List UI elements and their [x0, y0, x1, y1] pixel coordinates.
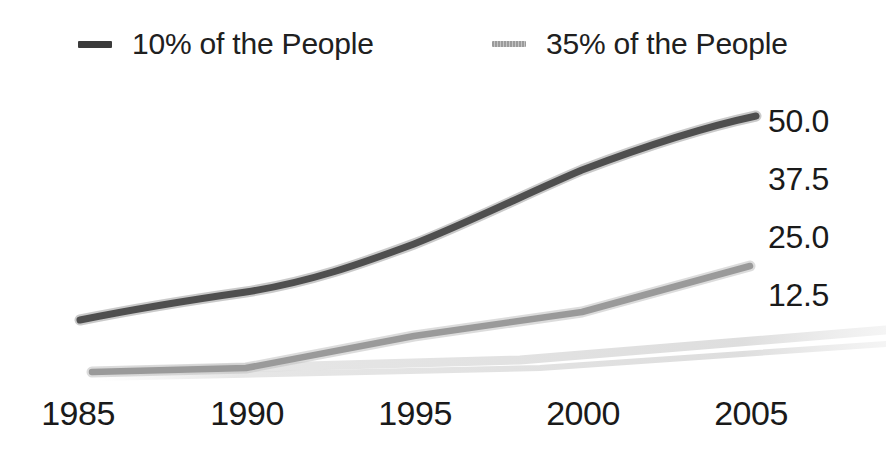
- x-tick-label-1985: 1985: [41, 396, 115, 430]
- series-35-stroke: [92, 266, 750, 372]
- series-35-halo: [92, 266, 750, 372]
- y-tick-label-12-5: 12.5: [768, 279, 829, 311]
- x-axis-labels: 1985 1990 1995 2000 2005: [0, 396, 886, 444]
- y-tick-label-50: 50.0: [768, 105, 829, 137]
- series-line-35-percent[interactable]: [92, 266, 750, 372]
- x-tick-label-1990: 1990: [210, 396, 284, 430]
- plot-area: [0, 0, 886, 450]
- line-chart: 10% of the People 35% of the People: [0, 0, 886, 450]
- plot-svg: [0, 0, 886, 450]
- x-tick-label-2000: 2000: [546, 396, 620, 430]
- y-axis-labels: 50.0 37.5 25.0 12.5: [768, 0, 886, 450]
- y-tick-label-25: 25.0: [768, 221, 829, 253]
- x-tick-label-1995: 1995: [378, 396, 452, 430]
- x-tick-label-2005: 2005: [714, 396, 788, 430]
- y-tick-label-37-5: 37.5: [768, 163, 829, 195]
